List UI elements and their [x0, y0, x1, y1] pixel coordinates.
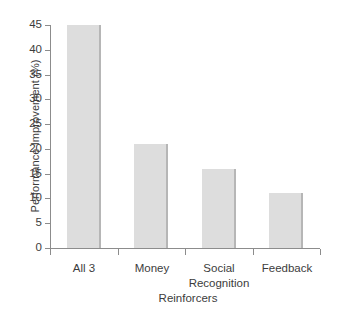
- x-axis-tick-mark: [50, 249, 51, 255]
- y-axis-tick-label: 30: [29, 91, 42, 106]
- y-axis-tick-mark: [45, 198, 50, 199]
- x-axis-category-label: SocialRecognition: [185, 261, 253, 291]
- x-axis-category-label: Feedback: [253, 261, 321, 276]
- x-axis-category-label: Money: [118, 261, 186, 276]
- y-axis-tick-mark: [45, 99, 50, 100]
- y-axis-line: [50, 25, 51, 248]
- y-axis-tick-mark: [45, 75, 50, 76]
- x-axis-tick-mark: [185, 249, 186, 255]
- y-axis-tick-mark: [45, 149, 50, 150]
- y-axis-tick-label: 40: [29, 42, 42, 57]
- x-axis-title: Reinforcers: [50, 292, 326, 304]
- category-label-line-1: Social: [203, 262, 234, 274]
- y-axis-tick-label: 5: [36, 215, 42, 230]
- bar: [134, 144, 168, 248]
- y-axis-tick-label: 35: [29, 67, 42, 82]
- bar: [67, 25, 101, 248]
- bar: [269, 193, 303, 248]
- y-axis-tick-label: 45: [29, 17, 42, 32]
- category-label-line-2: Recognition: [185, 276, 253, 291]
- x-axis-tick-mark: [253, 249, 254, 255]
- y-axis-tick-mark: [45, 124, 50, 125]
- y-axis-tick-mark: [45, 223, 50, 224]
- y-axis-tick-mark: [45, 50, 50, 51]
- x-axis-category-label: All 3: [50, 261, 118, 276]
- y-axis-tick-label: 20: [29, 141, 42, 156]
- category-label-line-1: Feedback: [262, 262, 313, 274]
- category-label-line-1: Money: [135, 262, 170, 274]
- plot-area: 051015202530354045 All 3MoneySocialRecog…: [50, 18, 326, 250]
- y-axis-tick-label: 15: [29, 166, 42, 181]
- category-label-line-1: All 3: [73, 262, 95, 274]
- y-axis-tick-label: 0: [36, 240, 42, 255]
- y-axis-tick-label: 10: [29, 190, 42, 205]
- bar: [202, 169, 236, 248]
- y-axis-tick-label: 25: [29, 116, 42, 131]
- x-axis-tick-mark: [118, 249, 119, 255]
- y-axis-tick-mark: [45, 25, 50, 26]
- bar-chart: Performance Improvement (%) 051015202530…: [0, 0, 343, 314]
- y-axis-tick-mark: [45, 174, 50, 175]
- x-axis-tick-mark: [320, 249, 321, 255]
